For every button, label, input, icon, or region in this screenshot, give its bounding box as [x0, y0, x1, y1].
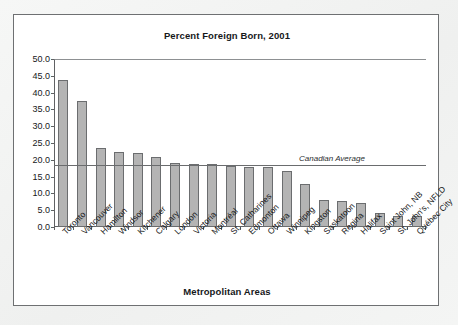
bar	[77, 101, 87, 227]
plot-area: 0.05.010.015.020.025.030.035.040.045.050…	[54, 59, 426, 227]
plot-frame	[54, 59, 426, 227]
y-tick-mark	[51, 93, 54, 94]
y-tick-mark	[51, 193, 54, 194]
y-tick-mark	[51, 160, 54, 161]
chart-card: Percent Foreign Born, 2001 0.05.010.015.…	[13, 14, 439, 306]
y-tick-mark	[51, 143, 54, 144]
y-tick-mark	[51, 210, 54, 211]
bar	[58, 80, 68, 227]
screenshot-root: Percent Foreign Born, 2001 0.05.010.015.…	[0, 0, 458, 325]
canadian-average-label: Canadian Average	[299, 154, 365, 163]
y-tick-mark	[51, 126, 54, 127]
x-axis-title: Metropolitan Areas	[14, 286, 440, 297]
y-tick-mark	[51, 109, 54, 110]
canadian-average-line	[54, 165, 426, 166]
y-tick-mark	[51, 76, 54, 77]
y-tick-mark	[51, 177, 54, 178]
chart-title: Percent Foreign Born, 2001	[14, 30, 440, 41]
y-tick-mark	[51, 59, 54, 60]
